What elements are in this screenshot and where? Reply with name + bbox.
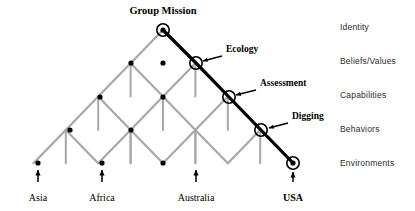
region-arrow-head bbox=[290, 172, 295, 177]
path-node-circle bbox=[223, 91, 235, 103]
bottom-arrows-group bbox=[35, 170, 295, 182]
lattice-edge bbox=[228, 130, 260, 163]
lattice-edge bbox=[163, 130, 195, 163]
lattice-node-dot bbox=[99, 160, 104, 165]
level-label-capabilities: Capabilities bbox=[340, 90, 386, 100]
lattice-edge bbox=[131, 63, 163, 96]
path-node-dot bbox=[290, 160, 295, 165]
diagram-canvas: Group Mission IdentityBeliefs/ValuesCapa… bbox=[0, 0, 415, 211]
region-arrow-head bbox=[193, 170, 198, 175]
level-label-identity: Identity bbox=[340, 22, 369, 32]
level-label-environments: Environments bbox=[340, 158, 394, 168]
annotation-arrows-group bbox=[203, 56, 288, 129]
annotation-label-assessment: Assessment bbox=[260, 78, 306, 88]
apex-title-group-mission: Group Mission bbox=[129, 5, 196, 16]
lattice-node-dot bbox=[35, 160, 40, 165]
lattice-node-dot bbox=[160, 60, 165, 65]
lattice-edge bbox=[195, 97, 227, 130]
lattice-node-dot bbox=[67, 127, 72, 132]
lattice-node-dot bbox=[128, 60, 133, 65]
lattice-edge bbox=[163, 97, 195, 130]
lattice-edge bbox=[66, 97, 98, 130]
lattice-node-dot bbox=[128, 127, 133, 132]
path-node-circle bbox=[190, 57, 202, 69]
level-label-beliefs-values: Beliefs/Values bbox=[340, 56, 396, 66]
level-label-behaviors: Behaviors bbox=[340, 124, 380, 134]
region-label-africa: Africa bbox=[89, 192, 115, 203]
region-arrow-head bbox=[35, 170, 40, 175]
path-node-dot bbox=[160, 27, 165, 32]
lattice-edge bbox=[131, 130, 163, 163]
annotation-label-digging: Digging bbox=[292, 111, 324, 121]
lattice-node-dot bbox=[160, 94, 165, 99]
lattice-edge bbox=[98, 130, 130, 163]
lattice-edge bbox=[131, 97, 163, 130]
lattice-edge bbox=[195, 130, 227, 163]
lattice-edge bbox=[33, 130, 65, 163]
annotation-label-ecology: Ecology bbox=[226, 44, 258, 54]
path-node-circle bbox=[255, 124, 267, 136]
region-arrow-head bbox=[99, 170, 104, 175]
lattice-node-dot bbox=[97, 94, 102, 99]
lattice-edge bbox=[66, 130, 98, 163]
lattice-edge bbox=[163, 63, 195, 96]
region-label-australia: Australia bbox=[178, 192, 215, 203]
lattice-node-dot bbox=[160, 160, 165, 165]
lattice-edge bbox=[98, 97, 130, 130]
region-label-usa: USA bbox=[283, 192, 303, 203]
region-label-asia: Asia bbox=[29, 192, 47, 203]
lattice-edge bbox=[98, 63, 130, 96]
